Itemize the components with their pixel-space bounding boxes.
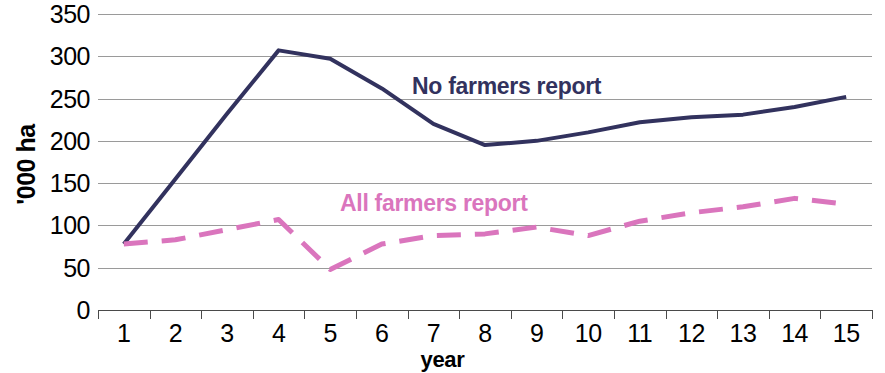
y-axis-tick-label: 200	[28, 129, 90, 154]
x-axis-tick-label: 12	[666, 320, 718, 348]
x-axis-tick	[150, 310, 151, 319]
series-label-all-farmers-report: All farmers report	[340, 190, 528, 217]
y-axis-tick-label: 350	[28, 2, 90, 27]
x-axis-tick-label: 10	[562, 320, 614, 348]
x-axis-title: year	[0, 347, 885, 373]
y-axis-tick-label: 150	[28, 171, 90, 196]
x-axis-tick	[820, 310, 821, 319]
y-axis-tick-labels: 050100150200250300350	[24, 0, 90, 371]
x-axis-tick-label: 7	[408, 320, 460, 348]
y-axis-tick-label: 300	[28, 44, 90, 69]
x-axis-tick-label: 11	[614, 320, 666, 348]
x-axis-tick-label: 15	[820, 320, 872, 348]
x-axis-tick	[872, 310, 873, 319]
x-axis-tick	[511, 310, 512, 319]
x-axis-tick-label: 3	[201, 320, 253, 348]
x-axis-tick-label: 6	[356, 320, 408, 348]
series-label-no-farmers-report: No farmers report	[412, 73, 601, 100]
series-lines	[98, 14, 872, 310]
y-axis-tick-label: 0	[28, 298, 90, 323]
x-axis-tick-label: 14	[769, 320, 821, 348]
x-axis-tick	[201, 310, 202, 319]
x-axis-tick	[614, 310, 615, 319]
x-axis-tick-label: 1	[98, 320, 150, 348]
x-axis-tick-label: 8	[459, 320, 511, 348]
x-axis-tick-label: 2	[150, 320, 202, 348]
x-axis-tick-label: 5	[304, 320, 356, 348]
x-axis-tick-label: 4	[253, 320, 305, 348]
x-axis-tick	[562, 310, 563, 319]
x-axis-tick	[666, 310, 667, 319]
x-axis-tick	[356, 310, 357, 319]
x-axis-tick	[253, 310, 254, 319]
x-axis-ticks	[98, 310, 872, 319]
y-axis-tick-label: 250	[28, 87, 90, 112]
x-axis-tick	[717, 310, 718, 319]
x-axis-tick	[459, 310, 460, 319]
x-axis-tick	[408, 310, 409, 319]
x-axis-tick	[98, 310, 99, 319]
x-axis-tick	[304, 310, 305, 319]
x-axis-tick-label: 9	[511, 320, 563, 348]
y-axis-tick-label: 100	[28, 213, 90, 238]
y-axis-tick-label: 50	[28, 256, 90, 281]
x-axis-tick	[769, 310, 770, 319]
x-axis-tick-label: 13	[717, 320, 769, 348]
plot-area	[98, 14, 872, 310]
